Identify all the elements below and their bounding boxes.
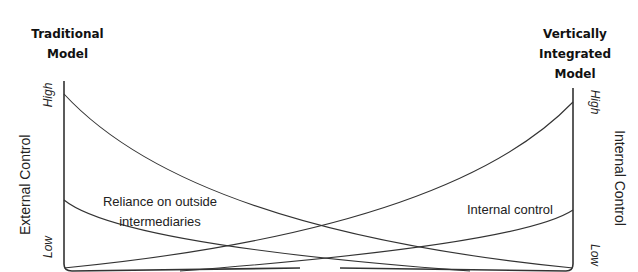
internal-control-axis-label: Internal Control [612,128,628,228]
left-low-label: Low [41,232,55,262]
right-low-label: Low [588,240,602,270]
internal-control-label: Internal control [455,200,565,220]
right-high-label: High [588,87,602,117]
reliance-label-line: Reliance on outside [85,192,235,212]
external-control-curve [64,94,573,268]
reliance-label: Reliance on outside intermediaries [85,192,235,232]
internal-control-curve [64,102,573,268]
external-control-axis-label: External Control [17,135,33,235]
left-high-label: High [41,80,55,110]
reliance-label-line: intermediaries [85,212,235,232]
